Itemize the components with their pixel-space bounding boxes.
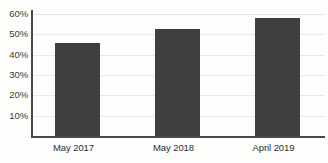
- y-axis-labels: 60% 50% 40% 30% 20% 10%: [0, 0, 28, 163]
- y-tick-label-60: 60%: [2, 9, 28, 19]
- x-tick-label-april-2019: April 2019: [237, 142, 310, 153]
- x-axis-line: [31, 136, 325, 138]
- y-tick-label-20: 20%: [2, 90, 28, 100]
- y-tick-label-40: 40%: [2, 50, 28, 60]
- x-tick-label-may-2018: May 2018: [137, 142, 210, 153]
- plot-area: [31, 14, 325, 136]
- bar-april-2019: [255, 18, 300, 136]
- y-tick-label-10: 10%: [2, 111, 28, 121]
- x-tick-label-may-2017: May 2017: [37, 142, 110, 153]
- gridline-60: [31, 14, 325, 15]
- bar-may-2017: [55, 43, 100, 136]
- bar-may-2018: [155, 29, 200, 136]
- y-axis-line: [31, 10, 33, 137]
- y-tick-label-30: 30%: [2, 70, 28, 80]
- bar-chart: 60% 50% 40% 30% 20% 10% May 2017 May 201…: [0, 0, 328, 163]
- y-tick-label-50: 50%: [2, 29, 28, 39]
